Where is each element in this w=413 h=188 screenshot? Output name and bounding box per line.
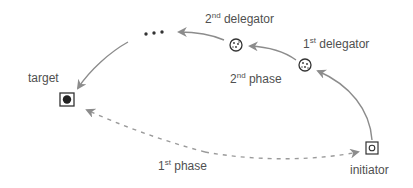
arrow-delegator1-to-delegator2 (250, 46, 296, 60)
delegator1-word: delegator (319, 37, 369, 51)
arrow-ellipsis-to-target (78, 42, 128, 88)
arrow-dashed-to-initiator (205, 152, 358, 159)
phase2-sup: nd (237, 71, 246, 80)
phase2-num: 2 (230, 72, 237, 86)
target-label: target (28, 71, 59, 85)
delegator1-label: 1st delegator (303, 37, 369, 51)
delegator2-sup: nd (212, 11, 221, 20)
arrow-dashed-to-target (87, 110, 205, 152)
phase2-label: 2nd phase (230, 72, 282, 86)
delegator2-label: 2nd delegator (205, 12, 274, 26)
arrow-initiator-to-delegator1 (318, 71, 372, 140)
target-node-icon[interactable] (60, 93, 74, 106)
initiator-node-icon[interactable] (366, 142, 378, 154)
delegator2-node-icon[interactable] (230, 39, 242, 51)
delegator1-node-icon[interactable] (299, 59, 311, 71)
phase1-label: 1st phase (158, 159, 207, 173)
ellipsis-dots (144, 30, 163, 35)
initiator-label: initiator (350, 163, 389, 177)
phase2-word: phase (249, 72, 282, 86)
delegator1-num: 1 (303, 37, 310, 51)
phase1-sup: st (165, 158, 171, 167)
delegator1-sup: st (310, 36, 316, 45)
delegator2-num: 2 (205, 12, 212, 26)
phase1-word: phase (174, 159, 207, 173)
phase1-num: 1 (158, 159, 165, 173)
arrow-delegator2-to-ellipsis (179, 32, 224, 40)
delegator2-word: delegator (224, 12, 274, 26)
